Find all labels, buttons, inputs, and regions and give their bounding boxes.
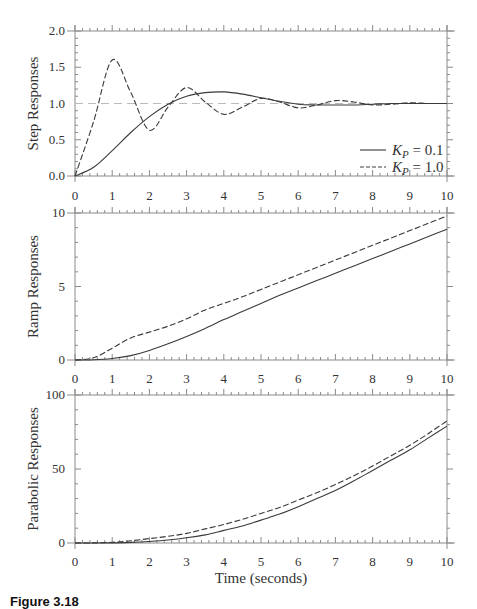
x-tick-label: 3 bbox=[183, 554, 190, 569]
series-kp-0-1-line bbox=[75, 426, 447, 543]
x-tick-label: 0 bbox=[72, 371, 79, 386]
series-kp-1-0-line bbox=[75, 421, 447, 543]
x-tick-label: 0 bbox=[72, 188, 79, 203]
legend-label: KP = 0.1 bbox=[391, 142, 443, 160]
x-tick-label: 6 bbox=[295, 371, 302, 386]
x-tick-label: 7 bbox=[332, 554, 339, 569]
x-tick-label: 5 bbox=[258, 188, 265, 203]
x-tick-label: 4 bbox=[221, 188, 228, 203]
axes-frame bbox=[67, 389, 455, 549]
y-tick-label: 0 bbox=[59, 535, 66, 550]
y-tick-labels: 050100 bbox=[46, 387, 66, 550]
y-tick-label: 100 bbox=[46, 387, 66, 402]
x-tick-label: 9 bbox=[407, 371, 414, 386]
y-tick-label: 0 bbox=[59, 352, 66, 367]
x-tick-label: 1 bbox=[109, 188, 116, 203]
x-tick-label: 5 bbox=[258, 554, 265, 569]
y-tick-label: 2.0 bbox=[49, 23, 65, 38]
x-tick-label: 8 bbox=[369, 371, 376, 386]
figure-caption: Figure 3.18 bbox=[10, 594, 79, 609]
y-axis-label: Step Responses bbox=[25, 56, 41, 150]
x-tick-labels: 012345678910 bbox=[72, 371, 454, 386]
x-tick-label: 10 bbox=[441, 554, 454, 569]
x-tick-label: 8 bbox=[369, 554, 376, 569]
step-response-panel: 0123456789100.00.51.01.52.0Step Response… bbox=[25, 23, 455, 203]
y-tick-label: 1.0 bbox=[49, 96, 65, 111]
x-tick-label: 3 bbox=[183, 371, 190, 386]
y-tick-label: 10 bbox=[52, 205, 65, 220]
x-tick-label: 4 bbox=[221, 554, 228, 569]
y-tick-label: 5 bbox=[59, 279, 66, 294]
x-tick-label: 2 bbox=[146, 554, 153, 569]
y-tick-labels: 0.00.51.01.52.0 bbox=[49, 23, 65, 183]
x-axis-label: Time (seconds) bbox=[215, 570, 307, 587]
legend-label: KP = 1.0 bbox=[391, 159, 443, 177]
x-tick-labels: 012345678910 bbox=[72, 554, 454, 569]
x-tick-label: 2 bbox=[146, 371, 153, 386]
parabolic-response-panel: 012345678910050100Parabolic Responses bbox=[25, 387, 455, 569]
x-tick-label: 1 bbox=[109, 554, 116, 569]
x-tick-label: 0 bbox=[72, 554, 79, 569]
x-tick-label: 10 bbox=[441, 188, 454, 203]
y-tick-labels: 0510 bbox=[52, 205, 65, 367]
series-kp-0-1-line bbox=[75, 229, 447, 360]
y-tick-label: 50 bbox=[52, 461, 65, 476]
x-tick-label: 3 bbox=[183, 188, 190, 203]
y-axis-label: Parabolic Responses bbox=[25, 407, 41, 531]
x-tick-label: 2 bbox=[146, 188, 153, 203]
x-tick-label: 9 bbox=[407, 188, 414, 203]
y-axis-label: Ramp Responses bbox=[25, 235, 41, 338]
x-tick-labels: 012345678910 bbox=[72, 188, 454, 203]
y-tick-label: 0.0 bbox=[49, 168, 65, 183]
x-tick-label: 10 bbox=[441, 371, 454, 386]
x-tick-label: 6 bbox=[295, 554, 302, 569]
x-tick-label: 1 bbox=[109, 371, 116, 386]
x-tick-label: 4 bbox=[221, 371, 228, 386]
x-tick-label: 5 bbox=[258, 371, 265, 386]
series-kp-1-0-line bbox=[75, 216, 447, 360]
x-tick-label: 6 bbox=[295, 188, 302, 203]
x-tick-label: 7 bbox=[332, 188, 339, 203]
x-tick-label: 9 bbox=[407, 554, 414, 569]
y-tick-label: 0.5 bbox=[49, 132, 65, 147]
axes-frame bbox=[67, 207, 455, 366]
y-tick-label: 1.5 bbox=[49, 59, 65, 74]
x-tick-label: 7 bbox=[332, 371, 339, 386]
x-tick-label: 8 bbox=[369, 188, 376, 203]
ramp-response-panel: 0123456789100510Ramp Responses bbox=[25, 205, 455, 386]
